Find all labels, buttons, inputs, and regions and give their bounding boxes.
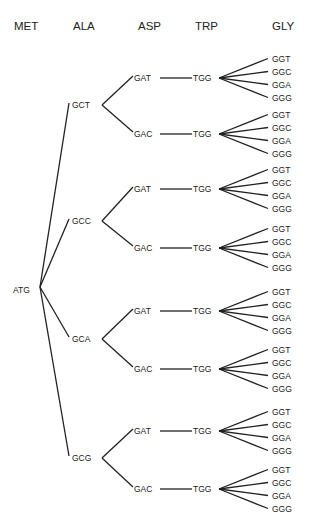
codon-asp-gat: GAT [134, 306, 151, 316]
codon-asp-gat: GAT [134, 73, 151, 83]
codon-gly-ggc: GGC [272, 123, 291, 133]
codon-gly-ggg: GGG [272, 263, 292, 273]
codon-asp-gac: GAC [134, 364, 152, 374]
codon-gly-ggt: GGT [272, 54, 290, 64]
column-header-trp: TRP [195, 20, 218, 32]
edge-ala-to-asp [102, 105, 133, 132]
codon-gly-ggc: GGC [272, 420, 291, 430]
codon-gly-ggg: GGG [272, 149, 292, 159]
codon-trp-tgg: TGG [193, 73, 211, 83]
codon-gly-ggg: GGG [272, 93, 292, 103]
column-header-met: MET [14, 20, 38, 32]
codon-gly-ggt: GGT [272, 345, 290, 355]
codon-trp-tgg: TGG [193, 364, 211, 374]
column-header-gly: GLY [272, 20, 294, 32]
edge-met-to-ala [40, 103, 69, 287]
codon-trp-tgg: TGG [193, 426, 211, 436]
codon-gly-gga: GGA [272, 433, 291, 443]
codon-gly-ggg: GGG [272, 504, 292, 514]
codon-gly-gga: GGA [272, 80, 291, 90]
codon-gly-gga: GGA [272, 491, 291, 501]
codon-gly-ggg: GGG [272, 384, 292, 394]
codon-met-atg: ATG [13, 285, 30, 295]
codon-tree-lines [0, 0, 310, 529]
codon-trp-tgg: TGG [193, 184, 211, 194]
codon-gly-ggc: GGC [272, 478, 291, 488]
codon-trp-tgg: TGG [193, 129, 211, 139]
codon-gly-ggc: GGC [272, 178, 291, 188]
edge-ala-to-asp [102, 458, 133, 487]
codon-gly-ggc: GGC [272, 67, 291, 77]
codon-gly-gga: GGA [272, 136, 291, 146]
column-header-asp: ASP [138, 20, 161, 32]
codon-asp-gat: GAT [134, 426, 151, 436]
codon-gly-ggg: GGG [272, 204, 292, 214]
codon-asp-gac: GAC [134, 129, 152, 139]
codon-gly-ggc: GGC [272, 237, 291, 247]
edge-ala-to-asp [102, 221, 133, 246]
codon-gly-ggt: GGT [272, 287, 290, 297]
edge-ala-to-asp [102, 187, 133, 221]
codon-trp-tgg: TGG [193, 484, 211, 494]
codon-gly-gga: GGA [272, 191, 291, 201]
codon-gly-ggt: GGT [272, 110, 290, 120]
codon-gly-ggt: GGT [272, 407, 290, 417]
codon-gly-gga: GGA [272, 250, 291, 260]
codon-gly-ggg: GGG [272, 446, 292, 456]
codon-ala-gcc: GCC [72, 216, 91, 226]
codon-trp-tgg: TGG [193, 243, 211, 253]
codon-trp-tgg: TGG [193, 306, 211, 316]
codon-ala-gca: GCA [72, 334, 90, 344]
codon-gly-gga: GGA [272, 371, 291, 381]
edge-ala-to-asp [102, 76, 133, 105]
codon-gly-gga: GGA [272, 313, 291, 323]
codon-gly-ggt: GGT [272, 165, 290, 175]
codon-gly-ggc: GGC [272, 358, 291, 368]
codon-gly-ggt: GGT [272, 224, 290, 234]
codon-gly-ggg: GGG [272, 326, 292, 336]
codon-asp-gat: GAT [134, 184, 151, 194]
codon-gly-ggc: GGC [272, 300, 291, 310]
column-header-ala: ALA [73, 20, 95, 32]
codon-asp-gac: GAC [134, 243, 152, 253]
edge-ala-to-asp [102, 339, 133, 367]
codon-ala-gcg: GCG [72, 453, 91, 463]
codon-asp-gac: GAC [134, 484, 152, 494]
edge-met-to-ala [40, 219, 69, 287]
edge-ala-to-asp [102, 429, 133, 458]
codon-gly-ggt: GGT [272, 465, 290, 475]
edge-ala-to-asp [102, 309, 133, 339]
codon-ala-gct: GCT [72, 100, 90, 110]
